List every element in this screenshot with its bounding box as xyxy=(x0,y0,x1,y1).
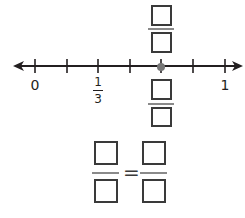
label-one-third: 1 3 xyxy=(93,76,103,105)
label-one-third-denominator: 3 xyxy=(94,93,102,105)
label-zero: 0 xyxy=(31,78,40,92)
above-numerator-box[interactable] xyxy=(151,5,172,26)
below-fraction-bar xyxy=(148,103,174,105)
number-line xyxy=(0,0,245,218)
label-one-third-numerator: 1 xyxy=(94,76,102,88)
equals-sign: = xyxy=(123,162,140,182)
equation-left-numerator-box[interactable] xyxy=(94,141,118,165)
marked-point xyxy=(157,63,165,71)
equation-right-fraction-bar xyxy=(140,172,167,174)
equation-right-denominator-box[interactable] xyxy=(142,179,166,203)
below-numerator-box[interactable] xyxy=(151,79,172,100)
label-one-third-bar xyxy=(93,90,103,91)
above-denominator-box[interactable] xyxy=(151,32,172,53)
below-denominator-box[interactable] xyxy=(151,107,172,127)
equation-left-denominator-box[interactable] xyxy=(94,179,118,203)
above-fraction-bar xyxy=(148,28,174,30)
label-one: 1 xyxy=(221,78,230,92)
equation-right-numerator-box[interactable] xyxy=(142,141,166,165)
equation-left-fraction-bar xyxy=(92,172,119,174)
